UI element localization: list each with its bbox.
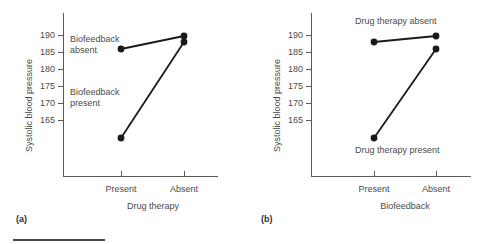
panel-a-data-point: [118, 46, 125, 53]
panel-b-series-line-drug-absent: [374, 36, 436, 42]
panel-b-data-point: [433, 33, 440, 40]
panel-a-series-line-biofeedback-present: [121, 42, 184, 138]
panel-b-data-point: [433, 46, 440, 53]
panel-a-series-line-biofeedback-absent: [121, 36, 184, 49]
panel-b-series-line-drug-present: [374, 49, 436, 138]
panel-a-data-point: [118, 135, 125, 142]
panel-a-caption: (a): [16, 214, 27, 224]
panel-b-caption: (b): [261, 214, 273, 224]
panel-a-data-layer: [0, 0, 245, 244]
footer-rule: [13, 239, 105, 241]
panel-b-data-point: [371, 39, 378, 46]
panel-b-data-point: [371, 135, 378, 142]
panel-a-data-point: [181, 33, 188, 40]
interaction-plot-figure: 190 185 180 175 170 165 Present Absent D…: [0, 0, 490, 244]
panel-b: 190 185 180 175 170 165 Present Absent B…: [245, 0, 490, 244]
panel-a-data-point: [181, 39, 188, 46]
panel-a: 190 185 180 175 170 165 Present Absent D…: [0, 0, 245, 244]
panel-b-data-layer: [245, 0, 490, 244]
